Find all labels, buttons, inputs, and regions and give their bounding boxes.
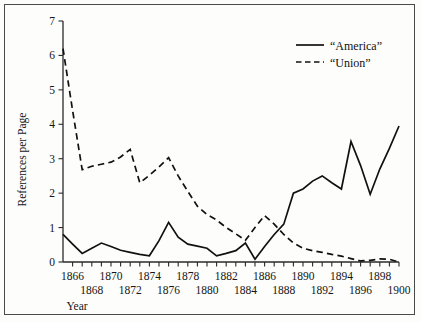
x-tick-label-upper: 1886 xyxy=(253,270,276,282)
axis-titles: References per PageYear xyxy=(16,113,88,312)
x-tick-label-upper: 1874 xyxy=(138,270,161,282)
x-tick-label-upper: 1882 xyxy=(215,270,238,282)
y-axis: 01234567 xyxy=(49,15,63,268)
series-line-america xyxy=(63,126,399,259)
x-tick-label-upper: 1878 xyxy=(176,270,199,282)
x-tick-label-lower: 1892 xyxy=(311,284,334,296)
x-tick-label-lower: 1868 xyxy=(80,284,103,296)
y-axis-title: References per Page xyxy=(16,113,29,207)
y-tick-label: 3 xyxy=(49,153,55,165)
x-tick-label-upper: 1870 xyxy=(100,270,123,282)
legend-label-america: “America” xyxy=(330,39,382,53)
x-tick-label-upper: 1866 xyxy=(61,270,84,282)
legend-label-union: “Union” xyxy=(330,56,371,70)
x-tick-label-lower: 1896 xyxy=(349,284,372,296)
data-series-group xyxy=(63,49,399,262)
y-tick-label: 7 xyxy=(49,15,55,27)
x-tick-label-lower: 1876 xyxy=(157,284,180,296)
x-tick-label-lower: 1900 xyxy=(388,284,411,296)
y-tick-label: 0 xyxy=(49,256,55,268)
y-tick-label: 1 xyxy=(49,222,55,234)
y-tick-label: 2 xyxy=(49,187,55,199)
y-tick-label: 5 xyxy=(49,84,55,96)
chart-legend: “America”“Union” xyxy=(296,39,382,70)
x-axis-title: Year xyxy=(66,300,87,312)
x-tick-label-lower: 1880 xyxy=(196,284,219,296)
x-tick-label-lower: 1888 xyxy=(272,284,295,296)
x-tick-label-lower: 1872 xyxy=(119,284,142,296)
x-tick-label-lower: 1884 xyxy=(234,284,257,296)
chart-figure: 01234567 1866187018741878188218861890189… xyxy=(0,0,421,322)
x-axis: 1866187018741878188218861890189418981868… xyxy=(61,262,411,296)
y-tick-label: 6 xyxy=(49,49,55,61)
x-tick-label-upper: 1894 xyxy=(330,270,353,282)
line-chart: 01234567 1866187018741878188218861890189… xyxy=(0,0,421,322)
x-tick-label-upper: 1890 xyxy=(292,270,315,282)
x-tick-label-upper: 1898 xyxy=(368,270,391,282)
y-tick-label: 4 xyxy=(49,118,55,130)
